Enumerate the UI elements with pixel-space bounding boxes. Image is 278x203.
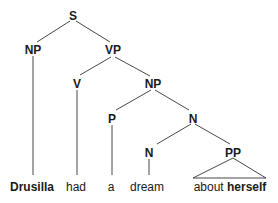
leaf-drusilla: Drusilla bbox=[10, 180, 54, 194]
node-s: S bbox=[69, 9, 77, 23]
leaf-herself: herself bbox=[227, 180, 267, 194]
edge-vp-np bbox=[115, 57, 150, 76]
edge-n-n bbox=[157, 124, 191, 144]
pp-triangle bbox=[193, 158, 266, 178]
node-v: V bbox=[73, 77, 81, 91]
edge-s-np bbox=[37, 21, 70, 42]
node-n: N bbox=[145, 146, 154, 160]
node-vp: VP bbox=[105, 43, 121, 57]
node-n-bar: N bbox=[189, 112, 198, 126]
node-pp: PP bbox=[225, 146, 241, 160]
edge-np-p bbox=[116, 90, 151, 110]
edge-s-vp bbox=[76, 21, 110, 42]
node-np-subject: NP bbox=[25, 43, 42, 57]
edge-n-pp bbox=[195, 124, 230, 144]
leaf-a: a bbox=[108, 180, 115, 194]
leaf-about-herself: about herself bbox=[194, 180, 268, 194]
node-np-object: NP bbox=[145, 77, 162, 91]
syntax-tree: S NP VP V NP P N N PP Drusilla had a dre… bbox=[0, 0, 278, 203]
leaf-had: had bbox=[66, 180, 86, 194]
leaf-dream: dream bbox=[130, 180, 164, 194]
edge-vp-v bbox=[80, 57, 111, 75]
tree-leaves: Drusilla had a dream about herself bbox=[10, 180, 267, 194]
tree-nodes: S NP VP V NP P N N PP bbox=[25, 9, 241, 160]
edge-np-n bbox=[155, 90, 189, 110]
leaf-about: about bbox=[194, 180, 225, 194]
node-p: P bbox=[108, 112, 116, 126]
